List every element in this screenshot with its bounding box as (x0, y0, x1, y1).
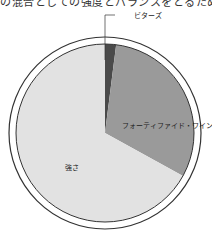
label-bitters: ビターズ (134, 11, 162, 20)
label-strength: 強さ (65, 164, 79, 172)
pie-chart: ビターズ フォーティファイド・ワイン 強さ (0, 0, 212, 242)
pie-slices (16, 44, 194, 222)
label-fortified-wine: フォーティファイド・ワイン (122, 122, 212, 130)
